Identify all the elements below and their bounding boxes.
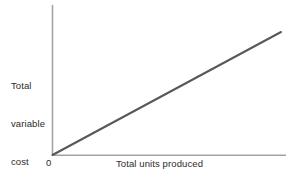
y-axis-label-line-3: cost: [11, 156, 45, 169]
y-axis-label: Total variable cost: [11, 55, 45, 177]
variable-cost-chart: Total variable cost Total units produced…: [0, 0, 288, 177]
x-axis-label: Total units produced: [116, 158, 203, 171]
y-axis-label-line-2: variable: [11, 118, 45, 131]
variable-cost-data-line: [53, 32, 282, 155]
origin-tick-label: 0: [46, 157, 51, 170]
y-axis-label-line-1: Total: [11, 80, 45, 93]
